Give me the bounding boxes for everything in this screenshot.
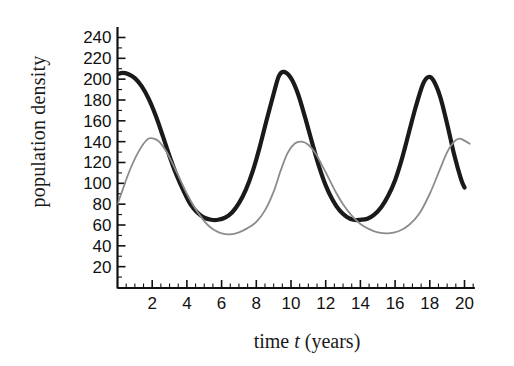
series-line-thick-black-curve — [118, 72, 465, 220]
x-tick-label: 2 — [147, 294, 156, 313]
x-tick-label: 18 — [420, 294, 439, 313]
y-tick-label: 140 — [83, 133, 111, 152]
y-tick-label: 200 — [83, 70, 111, 89]
x-tick-label: 6 — [217, 294, 226, 313]
x-tick-label: 10 — [282, 294, 301, 313]
x-axis-title: time t (years) — [117, 330, 497, 353]
x-tick-label: 14 — [351, 294, 370, 313]
y-tick-label: 120 — [83, 153, 111, 172]
plot-area: 2040608010012014016018020022024024681012… — [0, 0, 514, 366]
y-axis-title: population density — [27, 22, 50, 242]
x-tick-label: 20 — [455, 294, 474, 313]
chart-figure: population density time t (years) 204060… — [0, 0, 514, 366]
y-tick-label: 80 — [93, 195, 112, 214]
y-tick-label: 160 — [83, 112, 111, 131]
data-series — [118, 72, 470, 235]
tick-labels: 2040608010012014016018020022024024681012… — [83, 28, 474, 312]
x-tick-label: 8 — [252, 294, 261, 313]
x-axis-title-post: (years) — [300, 330, 361, 352]
x-tick-label: 12 — [316, 294, 335, 313]
x-tick-label: 16 — [386, 294, 405, 313]
y-tick-label: 20 — [93, 258, 112, 277]
x-tick-label: 4 — [182, 294, 191, 313]
y-tick-label: 180 — [83, 91, 111, 110]
y-tick-label: 100 — [83, 174, 111, 193]
y-tick-label: 240 — [83, 28, 111, 47]
y-tick-label: 220 — [83, 49, 111, 68]
y-tick-label: 60 — [93, 216, 112, 235]
y-tick-label: 40 — [93, 237, 112, 256]
x-axis-title-pre: time — [254, 330, 295, 352]
